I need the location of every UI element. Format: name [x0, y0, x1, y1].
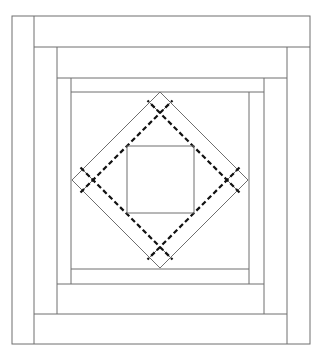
center-square — [127, 146, 194, 213]
outer-diamond — [72, 92, 248, 268]
quilt-block-diagram — [0, 0, 315, 352]
quilt-block-svg — [0, 0, 315, 352]
